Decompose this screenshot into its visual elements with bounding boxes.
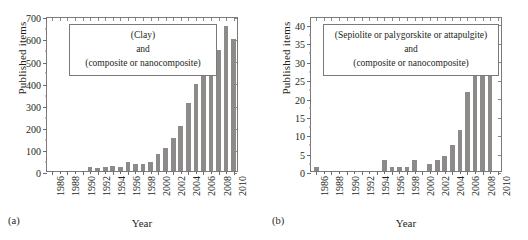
subfigure-label: (b) [272, 215, 284, 226]
y-axis-tick-label: 10 [277, 132, 305, 142]
y-axis-tick-label: 40 [277, 22, 305, 32]
y-axis-tick-mark [43, 151, 47, 152]
top-axis-tick [377, 18, 378, 21]
bar [126, 162, 131, 171]
top-axis-tick [120, 18, 121, 21]
x-axis-tick [483, 171, 484, 175]
top-axis-tick [369, 18, 370, 21]
top-axis-tick [460, 18, 461, 21]
y-axis-tick-label: 35 [277, 40, 305, 50]
annotation-line: (composite or nanocomposite) [330, 57, 492, 71]
bar [458, 130, 463, 171]
y-axis-tick-label: 700 [13, 14, 41, 24]
x-axis-tick [415, 171, 416, 174]
x-axis-tick [60, 171, 61, 174]
top-axis-tick [490, 18, 491, 21]
x-axis-tick [324, 171, 325, 174]
right-axis-tick [498, 118, 501, 119]
right-axis-tick [498, 136, 501, 137]
bar [435, 160, 440, 171]
x-axis-tick [128, 171, 129, 175]
right-axis-tick [498, 99, 501, 100]
top-axis-tick [422, 18, 423, 21]
x-axis-tick-label: 1990 [351, 176, 361, 196]
top-axis-tick [52, 18, 53, 21]
x-axis-tick-label: 1986 [56, 176, 66, 196]
x-axis-tick [234, 171, 235, 175]
y-axis-tick-mark [43, 40, 47, 41]
y-axis-tick-mark [307, 136, 311, 137]
x-axis-tick [105, 171, 106, 174]
x-axis-tick [203, 171, 204, 175]
subfigure-label: (a) [8, 215, 20, 226]
bar [110, 166, 115, 171]
top-axis-tick [219, 18, 220, 21]
x-axis-tick [52, 171, 53, 175]
y-axis-tick: 15 [277, 109, 311, 127]
y-axis-tick: 0 [13, 164, 47, 182]
x-axis-tick [407, 171, 408, 175]
x-axis-tick [467, 171, 468, 175]
x-axis-tick [422, 171, 423, 175]
x-axis-tick [188, 171, 189, 175]
x-axis-tick-label: 1998 [147, 176, 157, 196]
bar [133, 164, 138, 171]
y-axis-minor-tick [45, 117, 48, 118]
y-axis-tick: 300 [13, 98, 47, 116]
x-axis-tick [392, 171, 393, 175]
x-axis-tick-label: 1994 [381, 176, 391, 196]
top-axis-tick [158, 18, 159, 21]
top-axis-tick [475, 18, 476, 21]
x-axis-tick-label: 1988 [71, 176, 81, 196]
bar [178, 126, 183, 171]
bar [95, 168, 100, 171]
x-axis-tick [151, 171, 152, 174]
top-axis-tick [331, 18, 332, 21]
annotation-box: (Sepiolite or palygorskite or attapulgit… [323, 24, 499, 76]
x-axis-tick-label: 2002 [441, 176, 451, 196]
y-axis-tick-label: 25 [277, 77, 305, 87]
bar [201, 64, 206, 171]
x-axis-title: Year [46, 217, 238, 229]
y-axis-minor-tick [45, 73, 48, 74]
top-axis-tick [392, 18, 393, 21]
y-axis-tick: 0 [277, 164, 311, 182]
top-axis-tick [339, 18, 340, 21]
top-axis-tick [407, 18, 408, 21]
top-axis-tick [354, 18, 355, 21]
top-axis-tick [498, 18, 499, 21]
y-axis-tick-label: 200 [13, 125, 41, 135]
x-axis-tick [384, 171, 385, 174]
y-axis-tick: 100 [13, 142, 47, 160]
y-axis-tick: 5 [277, 146, 311, 164]
x-axis-tick [83, 171, 84, 175]
y-axis-tick-mark [307, 155, 311, 156]
bar [194, 84, 199, 171]
bar [103, 167, 108, 171]
y-axis-tick: 10 [277, 127, 311, 145]
y-axis-tick: 200 [13, 120, 47, 138]
y-axis-tick: 700 [13, 9, 47, 27]
y-axis-tick: 600 [13, 31, 47, 49]
x-axis-tick-label: 1986 [320, 176, 330, 196]
y-axis-minor-tick [45, 95, 48, 96]
y-axis-tick-label: 0 [13, 169, 41, 179]
bar [118, 167, 123, 171]
x-axis-tick-label: 1996 [132, 176, 142, 196]
x-axis-tick [226, 171, 227, 174]
bar [465, 92, 470, 171]
top-axis-tick [430, 18, 431, 21]
annotation-line: (composite or nanocomposite) [76, 57, 210, 71]
x-axis-tick [452, 171, 453, 175]
right-axis-tick [498, 155, 501, 156]
bar [390, 167, 395, 171]
top-axis-tick [105, 18, 106, 21]
annotation-line: and [330, 43, 492, 57]
x-axis-tick-label: 2008 [223, 176, 233, 196]
top-axis-tick [415, 18, 416, 21]
y-axis-tick-mark [43, 173, 47, 174]
y-axis-tick-label: 100 [13, 147, 41, 157]
top-axis-tick [467, 18, 468, 21]
x-axis-tick-label: 2010 [238, 176, 248, 196]
x-axis-tick-label: 2004 [192, 176, 202, 196]
